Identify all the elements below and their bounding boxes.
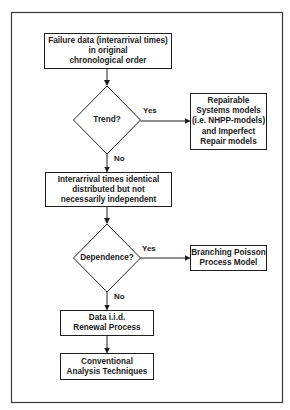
edge-trend-no-label: No — [114, 154, 125, 164]
edge-dependence-no-label: No — [114, 292, 125, 302]
edge-trend-yes-label: Yes — [143, 106, 157, 116]
node-dependence-label: Dependence? — [73, 252, 141, 264]
node-interarrival-label: Interarrival times identical distributed… — [45, 172, 172, 207]
node-failure-data-label: Failure data (interarrival times) in ori… — [44, 33, 172, 69]
node-trend-label: Trend? — [73, 114, 141, 126]
node-repairable-systems-label: Repairable Systems models (i.e. NHPP-mod… — [190, 93, 267, 150]
node-branching-poisson-label: Branching Poisson Process Model — [190, 245, 267, 271]
outer-frame — [12, 13, 283, 403]
node-conventional-label: Conventional Analysis Techniques — [60, 353, 154, 380]
node-data-iid-label: Data i.i.d. Renewal Process — [60, 310, 154, 336]
edge-dependence-yes-label: Yes — [142, 244, 156, 254]
